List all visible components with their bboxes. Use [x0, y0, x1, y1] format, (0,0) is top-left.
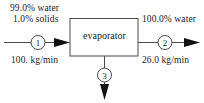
- stream-1-flow-rate-label: 100. kg/min: [11, 55, 58, 66]
- stream-3-arrowhead-icon: [100, 84, 109, 100]
- stream-2-composition-label: 100.0% water: [142, 14, 196, 25]
- stream-3-number: 3: [102, 71, 107, 81]
- stream-1-composition-solids: 1.0% solids: [13, 14, 59, 25]
- stream-1-number: 1: [36, 38, 41, 48]
- stream-2-arrowhead-icon: [184, 38, 200, 47]
- stream-1-composition-label: 99.0% water 1.0% solids: [8, 3, 59, 25]
- process-flow-diagram: 1 2 3 evaporator 99.0% water 1.0% solids…: [0, 0, 204, 103]
- stream-2-number: 2: [163, 38, 168, 48]
- stream-1-composition-water: 99.0% water: [10, 3, 59, 14]
- stream-1-arrowhead-icon: [54, 38, 70, 47]
- evaporator-label: evaporator: [70, 30, 139, 41]
- stream-2-flow-rate-label: 26.0 kg/min: [142, 55, 189, 66]
